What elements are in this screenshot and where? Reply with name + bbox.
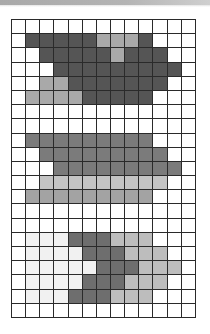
grid-cell[interactable] [96, 218, 110, 232]
grid-cell[interactable] [138, 147, 152, 161]
grid-cell[interactable] [68, 246, 82, 260]
grid-cell[interactable] [39, 260, 53, 274]
grid-cell[interactable] [110, 161, 124, 175]
grid-cell[interactable] [53, 118, 67, 132]
grid-cell[interactable] [53, 133, 67, 147]
grid-cell[interactable] [53, 47, 67, 61]
grid-cell[interactable] [167, 47, 181, 61]
grid-cell[interactable] [124, 203, 138, 217]
grid-cell[interactable] [152, 175, 166, 189]
grid-cell[interactable] [152, 203, 166, 217]
grid-cell[interactable] [68, 218, 82, 232]
grid-cell[interactable] [152, 274, 166, 288]
grid-cell[interactable] [82, 303, 96, 317]
grid-cell[interactable] [39, 147, 53, 161]
grid-cell[interactable] [11, 19, 25, 33]
grid-cell[interactable] [53, 62, 67, 76]
grid-cell[interactable] [39, 19, 53, 33]
grid-cell[interactable] [96, 19, 110, 33]
grid-cell[interactable] [124, 62, 138, 76]
grid-cell[interactable] [167, 118, 181, 132]
grid-cell[interactable] [11, 274, 25, 288]
grid-cell[interactable] [39, 33, 53, 47]
grid-cell[interactable] [138, 118, 152, 132]
grid-cell[interactable] [39, 133, 53, 147]
grid-cell[interactable] [96, 303, 110, 317]
grid-cell[interactable] [96, 246, 110, 260]
grid-cell[interactable] [68, 104, 82, 118]
grid-cell[interactable] [110, 104, 124, 118]
grid-cell[interactable] [11, 118, 25, 132]
grid-cell[interactable] [110, 303, 124, 317]
grid-cell[interactable] [124, 289, 138, 303]
grid-cell[interactable] [167, 133, 181, 147]
grid-cell[interactable] [25, 303, 39, 317]
grid-cell[interactable] [96, 260, 110, 274]
grid-cell[interactable] [152, 232, 166, 246]
grid-cell[interactable] [110, 147, 124, 161]
grid-cell[interactable] [181, 303, 195, 317]
grid-cell[interactable] [11, 189, 25, 203]
grid-cell[interactable] [96, 33, 110, 47]
grid-cell[interactable] [124, 19, 138, 33]
grid-cell[interactable] [110, 118, 124, 132]
grid-cell[interactable] [152, 246, 166, 260]
grid-cell[interactable] [138, 76, 152, 90]
grid-cell[interactable] [124, 90, 138, 104]
grid-cell[interactable] [82, 118, 96, 132]
grid-cell[interactable] [25, 62, 39, 76]
grid-cell[interactable] [96, 90, 110, 104]
grid-cell[interactable] [152, 147, 166, 161]
grid-cell[interactable] [39, 161, 53, 175]
grid-cell[interactable] [152, 218, 166, 232]
grid-cell[interactable] [68, 232, 82, 246]
grid-cell[interactable] [11, 76, 25, 90]
grid-cell[interactable] [138, 303, 152, 317]
grid-cell[interactable] [39, 47, 53, 61]
grid-cell[interactable] [82, 175, 96, 189]
grid-cell[interactable] [96, 274, 110, 288]
grid-cell[interactable] [25, 232, 39, 246]
grid-cell[interactable] [68, 19, 82, 33]
grid-cell[interactable] [138, 104, 152, 118]
grid-cell[interactable] [167, 232, 181, 246]
grid-cell[interactable] [11, 232, 25, 246]
grid-cell[interactable] [96, 62, 110, 76]
grid-cell[interactable] [25, 147, 39, 161]
grid-cell[interactable] [25, 33, 39, 47]
grid-cell[interactable] [152, 260, 166, 274]
grid-cell[interactable] [82, 203, 96, 217]
grid-cell[interactable] [124, 218, 138, 232]
grid-cell[interactable] [167, 19, 181, 33]
grid-cell[interactable] [124, 246, 138, 260]
grid-cell[interactable] [138, 62, 152, 76]
grid-cell[interactable] [152, 104, 166, 118]
grid-cell[interactable] [68, 47, 82, 61]
grid-cell[interactable] [181, 175, 195, 189]
grid-cell[interactable] [110, 33, 124, 47]
grid-cell[interactable] [138, 161, 152, 175]
grid-cell[interactable] [181, 76, 195, 90]
grid-cell[interactable] [11, 161, 25, 175]
grid-cell[interactable] [152, 33, 166, 47]
grid-cell[interactable] [68, 147, 82, 161]
grid-cell[interactable] [96, 76, 110, 90]
grid-cell[interactable] [110, 260, 124, 274]
grid-cell[interactable] [82, 62, 96, 76]
grid-cell[interactable] [181, 232, 195, 246]
grid-cell[interactable] [124, 104, 138, 118]
grid-cell[interactable] [181, 47, 195, 61]
grid-cell[interactable] [181, 289, 195, 303]
grid-cell[interactable] [11, 90, 25, 104]
grid-cell[interactable] [110, 274, 124, 288]
grid-cell[interactable] [110, 90, 124, 104]
grid-cell[interactable] [39, 274, 53, 288]
grid-cell[interactable] [39, 289, 53, 303]
grid-cell[interactable] [124, 118, 138, 132]
grid-cell[interactable] [25, 289, 39, 303]
grid-cell[interactable] [96, 104, 110, 118]
grid-cell[interactable] [82, 104, 96, 118]
grid-cell[interactable] [39, 175, 53, 189]
grid-cell[interactable] [167, 147, 181, 161]
grid-cell[interactable] [110, 19, 124, 33]
